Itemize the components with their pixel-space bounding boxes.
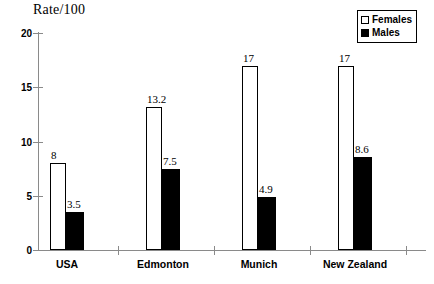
bar-edmonton-females [146,107,162,250]
y-axis-tick [33,142,43,143]
bar-new-zealand-males [354,157,372,250]
category-label-munich: Munich [241,258,278,270]
y-axis-tick-label: 5 [6,190,32,201]
y-axis-tick-label: 0 [6,245,32,256]
filled-square-icon [361,29,369,37]
x-axis-line [38,250,426,251]
y-axis-title: Rate/100 [33,2,85,18]
bar-value-label: 17 [339,53,350,64]
legend-item-males: Males [361,26,412,39]
bar-value-label: 7.5 [163,156,177,167]
y-axis-tick [33,33,43,34]
bar-value-label: 17 [243,53,254,64]
legend-label-females: Females [372,15,412,25]
legend: Females Males [357,10,417,43]
y-axis-tick-label: 15 [6,82,32,93]
bar-edmonton-males [162,169,180,250]
plot-area: 83.513.27.5174.9178.6 [38,33,425,250]
bar-value-label: 8 [51,150,57,161]
y-axis-tick-label: 10 [6,136,32,147]
y-axis-tick [33,196,43,197]
y-axis-tick [33,250,43,251]
category-label-new-zealand: New Zealand [323,258,387,270]
bar-value-label: 8.6 [355,144,369,155]
bar-value-label: 13.2 [147,94,166,105]
bar-usa-males [66,212,84,250]
bar-munich-females [242,66,258,250]
category-label-edmonton: Edmonton [137,258,189,270]
bar-new-zealand-females [338,66,354,250]
x-axis-tick [118,246,119,255]
bar-chart: Rate/100 05101520 83.513.27.5174.9178.6 … [0,0,434,284]
bar-value-label: 4.9 [259,184,273,195]
x-axis-tick [310,246,311,255]
bar-value-label: 3.5 [67,199,81,210]
hollow-square-icon [361,16,369,24]
bar-usa-females [50,163,66,250]
y-axis-ticks: 05101520 [0,0,32,284]
bar-munich-males [258,197,276,250]
category-label-usa: USA [56,258,78,270]
y-axis-tick [33,87,43,88]
x-axis-tick [214,246,215,255]
legend-label-males: Males [372,28,400,38]
y-axis-tick-label: 20 [6,28,32,39]
x-axis-tick [406,246,407,255]
legend-item-females: Females [361,13,412,26]
